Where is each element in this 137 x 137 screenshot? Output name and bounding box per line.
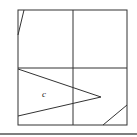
triangle-lower-edge — [18, 97, 101, 116]
triangle-upper-edge — [18, 69, 101, 97]
bottom-right-slant — [103, 105, 127, 125]
region-label-c: c — [42, 89, 46, 99]
geometry-diagram: c — [0, 0, 137, 137]
top-left-slant — [18, 10, 24, 35]
